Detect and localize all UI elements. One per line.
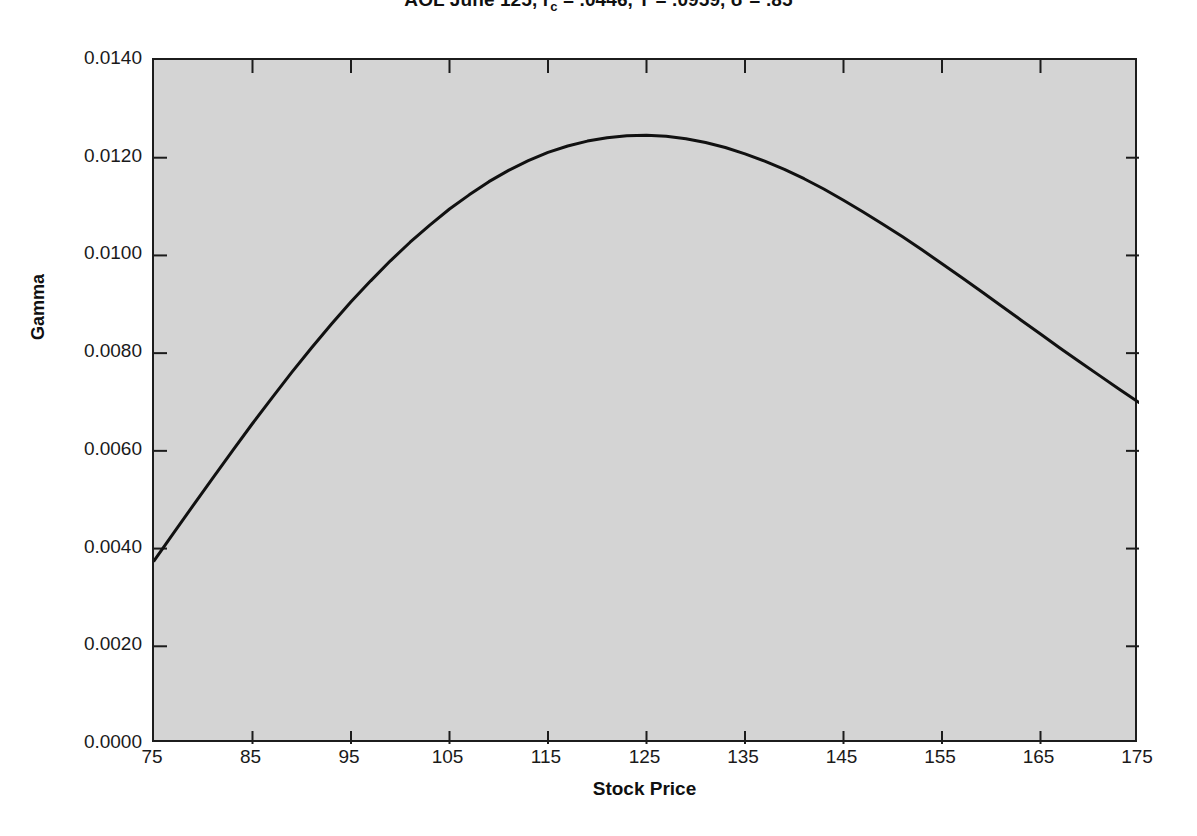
y-tick-label: 0.0000 <box>32 731 142 753</box>
x-axis-tick-labels: 758595105115125135145155165175 <box>152 746 1137 774</box>
x-tick-label: 165 <box>1023 746 1055 768</box>
chart-title-rate-value: .0446 <box>580 0 628 10</box>
x-tick-label: 95 <box>338 746 359 768</box>
plot-area <box>152 58 1137 742</box>
y-tick-label: 0.0020 <box>32 633 142 655</box>
chart-title-time-label: T <box>638 0 650 10</box>
y-tick-label: 0.0120 <box>32 145 142 167</box>
x-tick-label: 145 <box>826 746 858 768</box>
x-tick-label: 135 <box>727 746 759 768</box>
x-tick-label: 155 <box>924 746 956 768</box>
x-tick-label: 115 <box>531 746 561 768</box>
chart-title-vol-label: σ <box>731 0 744 10</box>
x-tick-label: 175 <box>1121 746 1153 768</box>
chart-title: AOL June 125, rc = .0446, T = .0959, σ =… <box>0 0 1197 14</box>
chart-title-rate-subscript: c <box>550 0 557 14</box>
y-tick-label: 0.0080 <box>32 340 142 362</box>
plot-canvas <box>154 60 1139 744</box>
x-tick-label: 105 <box>432 746 464 768</box>
chart-title-instrument: AOL June 125 <box>404 0 532 10</box>
chart-title-time-value: .0959 <box>672 0 720 10</box>
y-tick-label: 0.0100 <box>32 242 142 264</box>
y-tick-label: 0.0060 <box>32 438 142 460</box>
y-axis-title: Gamma <box>28 274 49 340</box>
gamma-curve <box>154 135 1139 561</box>
gamma-vs-stock-price-chart: AOL June 125, rc = .0446, T = .0959, σ =… <box>0 0 1197 836</box>
y-axis-tick-labels: 0.00000.00200.00400.00600.00800.01000.01… <box>30 58 142 742</box>
x-tick-label: 125 <box>629 746 661 768</box>
x-axis-title: Stock Price <box>152 778 1137 800</box>
x-tick-label: 75 <box>141 746 162 768</box>
x-tick-label: 85 <box>240 746 261 768</box>
y-tick-label: 0.0140 <box>32 47 142 69</box>
chart-title-vol-value: .85 <box>766 0 793 10</box>
tick-marks <box>154 60 1139 744</box>
y-tick-label: 0.0040 <box>32 536 142 558</box>
